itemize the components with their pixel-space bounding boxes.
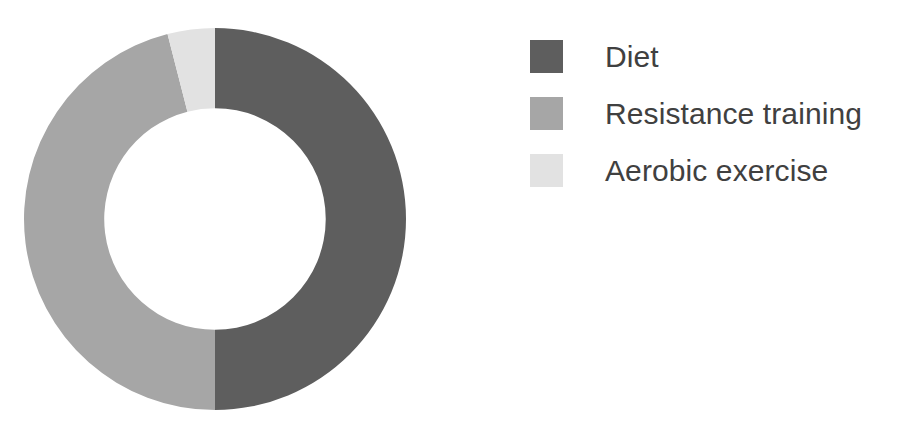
legend-label-resistance-training: Resistance training xyxy=(605,97,862,131)
donut-slice-diet[interactable] xyxy=(215,28,406,410)
donut-chart-plot-area xyxy=(24,28,406,410)
legend-item-aerobic-exercise[interactable]: Aerobic exercise xyxy=(530,142,890,199)
donut-chart-svg xyxy=(24,28,406,410)
chart-legend: Diet Resistance training Aerobic exercis… xyxy=(530,28,890,199)
legend-swatch-aerobic-exercise xyxy=(530,154,563,187)
legend-swatch-resistance-training xyxy=(530,97,563,130)
donut-slices-group xyxy=(24,28,406,410)
donut-chart-figure: Diet Resistance training Aerobic exercis… xyxy=(0,0,912,427)
legend-label-aerobic-exercise: Aerobic exercise xyxy=(605,154,828,188)
legend-swatch-diet xyxy=(530,40,563,73)
legend-item-resistance-training[interactable]: Resistance training xyxy=(530,85,890,142)
legend-item-diet[interactable]: Diet xyxy=(530,28,890,85)
legend-label-diet: Diet xyxy=(605,40,659,74)
